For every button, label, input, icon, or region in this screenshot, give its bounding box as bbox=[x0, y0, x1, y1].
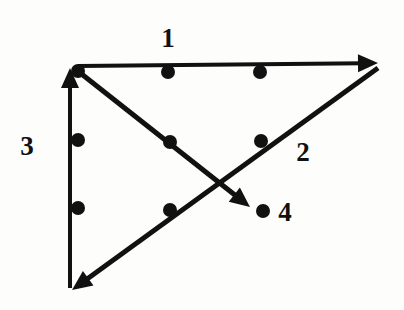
diagram-canvas bbox=[0, 0, 404, 310]
point-top-right-mid bbox=[253, 65, 267, 79]
segment-1-line bbox=[78, 63, 364, 66]
point-corner-top-left bbox=[71, 64, 85, 78]
point-segment2-lower bbox=[163, 203, 177, 217]
segment-3 bbox=[61, 68, 79, 288]
point-segment4-mid bbox=[163, 135, 177, 149]
vector-diagram: 1 2 3 4 bbox=[0, 0, 404, 310]
point-left-lower bbox=[71, 201, 85, 215]
segment-2-label: 2 bbox=[296, 139, 310, 166]
segment-3-label: 3 bbox=[20, 133, 34, 160]
segment-4-line bbox=[79, 72, 239, 198]
segment-1 bbox=[78, 54, 378, 72]
segment-2-line bbox=[83, 68, 378, 282]
segment-4-label: 4 bbox=[278, 199, 292, 226]
point-left-upper bbox=[71, 133, 85, 147]
point-top-mid bbox=[161, 65, 175, 79]
segment-1-label: 1 bbox=[161, 25, 175, 52]
point-near-label-4 bbox=[256, 204, 270, 218]
point-segment2-upper bbox=[254, 134, 268, 148]
